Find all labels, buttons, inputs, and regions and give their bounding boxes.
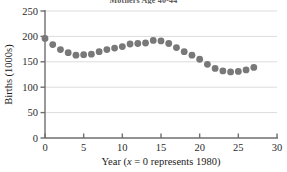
- data-point: [173, 44, 180, 51]
- data-point: [158, 38, 165, 45]
- y-tick-label-250: 250: [22, 6, 38, 17]
- data-point: [65, 49, 72, 56]
- data-point: [73, 52, 80, 59]
- grid-lines: [45, 11, 277, 113]
- data-point: [212, 65, 219, 72]
- data-point: [119, 43, 126, 50]
- data-point: [227, 69, 234, 76]
- chart-plot-area: 050100150200250051015202530Births (1000s…: [0, 0, 287, 172]
- data-point: [165, 40, 172, 47]
- data-point: [49, 41, 56, 48]
- data-point: [127, 41, 134, 48]
- data-series-births: [42, 35, 258, 75]
- data-point: [142, 40, 149, 47]
- data-point: [204, 61, 211, 68]
- data-point: [196, 56, 203, 63]
- data-point: [103, 46, 110, 53]
- data-point: [250, 64, 257, 71]
- chart-figure: Mothers Age 40-44 0501001502002500510152…: [0, 0, 287, 172]
- data-point: [80, 51, 87, 58]
- y-tick-label-150: 150: [22, 56, 38, 67]
- y-tick-label-200: 200: [22, 31, 38, 42]
- x-tick-label-30: 30: [272, 142, 283, 153]
- data-point: [150, 37, 157, 44]
- data-point: [235, 68, 242, 75]
- data-point: [96, 48, 103, 55]
- data-point: [134, 40, 141, 47]
- y-axis-title: Births (1000s): [3, 44, 15, 105]
- data-point: [42, 35, 49, 42]
- x-tick-label-15: 15: [156, 142, 167, 153]
- data-point: [189, 52, 196, 59]
- data-point: [243, 67, 250, 74]
- y-tick-label-0: 0: [33, 133, 38, 144]
- data-point: [181, 48, 188, 55]
- x-tick-label-0: 0: [42, 142, 47, 153]
- x-axis-title: Year (x = 0 represents 1980): [102, 156, 221, 168]
- x-tick-label-25: 25: [233, 142, 244, 153]
- data-point: [219, 68, 226, 75]
- y-tick-label-100: 100: [22, 82, 38, 93]
- x-tick-label-20: 20: [194, 142, 205, 153]
- data-point: [111, 45, 118, 52]
- y-axis-ticks: 050100150200250: [22, 6, 45, 144]
- axes: [45, 10, 278, 138]
- data-point: [88, 51, 95, 58]
- x-axis-ticks: 051015202530: [42, 134, 282, 153]
- x-tick-label-5: 5: [81, 142, 86, 153]
- data-point: [57, 46, 64, 53]
- x-tick-label-10: 10: [117, 142, 128, 153]
- y-tick-label-50: 50: [28, 107, 39, 118]
